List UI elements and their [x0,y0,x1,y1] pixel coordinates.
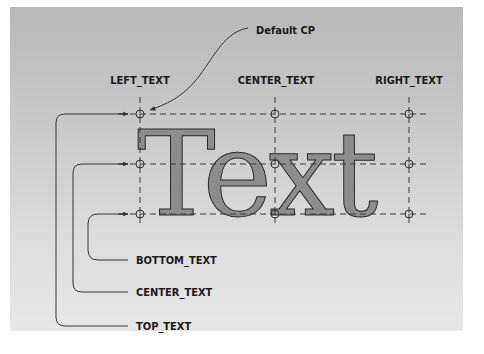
label-center-text-vertical: CENTER_TEXT [136,286,213,299]
text-alignment-diagram: Text LEFT_TEXT CENTER_TEXT RIGHT_TEXT De… [0,0,484,354]
label-left-text: LEFT_TEXT [110,74,170,87]
label-bottom-text: BOTTOM_TEXT [136,254,217,267]
sample-text: Text [137,105,378,243]
label-default-cp: Default CP [256,24,315,37]
label-top-text: TOP_TEXT [136,320,192,333]
top-text-connector [56,114,128,326]
default-cp-arrow [150,28,248,110]
bottom-text-connector [88,214,128,260]
label-center-text-horizontal: CENTER_TEXT [238,74,315,87]
center-text-connector [73,164,128,292]
label-right-text: RIGHT_TEXT [375,74,443,87]
